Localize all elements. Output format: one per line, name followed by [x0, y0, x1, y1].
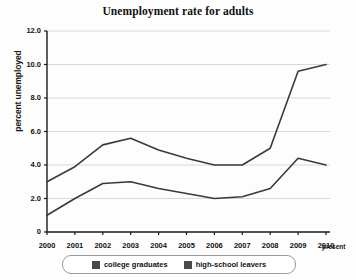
legend-swatch-icon: [92, 261, 100, 269]
series-line-2: [47, 158, 326, 215]
series-lines: [47, 65, 326, 216]
legend-label: college graduates: [104, 260, 168, 269]
chart-figure: Unemployment rate for adults percent une…: [0, 0, 356, 280]
plot-area: [0, 0, 356, 280]
legend-entry-2[interactable]: high-school leavers: [184, 260, 266, 269]
chart-legend: college graduateshigh-school leavers: [62, 255, 296, 274]
series-line-1: [47, 65, 326, 182]
legend-label: high-school leavers: [196, 260, 266, 269]
legend-swatch-icon: [184, 261, 192, 269]
gridlines: [47, 31, 330, 199]
legend-entry-1[interactable]: college graduates: [92, 260, 168, 269]
axis-lines: [44, 31, 330, 235]
